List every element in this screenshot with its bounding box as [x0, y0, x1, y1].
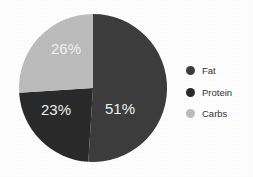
legend-swatch-icon-protein: [186, 88, 195, 97]
legend-item-protein[interactable]: Protein: [186, 86, 252, 99]
legend-label-protein: Protein: [202, 87, 232, 98]
pie-data-label-protein: 23%: [41, 101, 71, 118]
legend-item-carbs[interactable]: Carbs: [186, 107, 252, 120]
legend-item-fat[interactable]: Fat: [186, 64, 252, 77]
legend-label-fat: Fat: [202, 65, 216, 76]
pie-chart-svg: 51%23%26%: [0, 0, 188, 177]
pie-data-label-fat: 51%: [105, 100, 135, 117]
chart-legend: Fat Protein Carbs: [186, 64, 252, 120]
legend-label-carbs: Carbs: [202, 108, 227, 119]
legend-swatch-icon-carbs: [186, 109, 195, 118]
pie-slice-protein[interactable]: [19, 88, 93, 162]
pie-chart-plot-area: 51%23%26%: [0, 0, 188, 177]
pie-slice-fat[interactable]: [88, 14, 167, 162]
pie-chart-figure: 51%23%26% Fat Protein Carbs: [0, 0, 253, 177]
pie-slice-group: [19, 14, 167, 162]
pie-data-label-carbs: 26%: [51, 40, 81, 57]
legend-swatch-icon-fat: [186, 66, 195, 75]
